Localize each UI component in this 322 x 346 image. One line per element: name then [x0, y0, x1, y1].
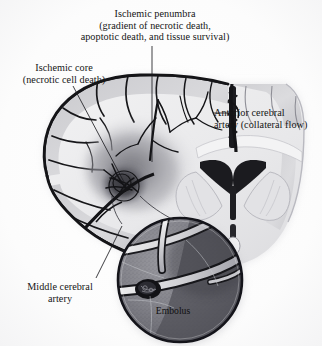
- ischemic-penumbra-label: Ischemic penumbra (gradient of necrotic …: [48, 8, 262, 43]
- embolus-clot: [135, 279, 161, 299]
- ischemic-core-label: Ischemic core (necrotic cell death): [0, 62, 128, 85]
- embolus-label: Embolus: [142, 305, 204, 317]
- anterior-cerebral-artery-label: Anterior cerebral artery (collateral flo…: [214, 107, 322, 130]
- inset-vessel-vertical: [161, 218, 166, 270]
- ischemic-stroke-figure: Ischemic penumbra (gradient of necrotic …: [0, 0, 322, 346]
- septum-pellucidum: [230, 186, 236, 220]
- ischemic-core-region: [100, 163, 148, 205]
- middle-cerebral-artery-label: Middle cerebral artery: [6, 281, 114, 304]
